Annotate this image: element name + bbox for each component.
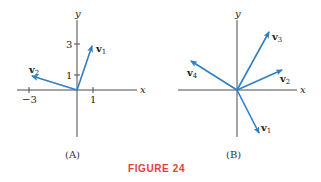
figure-canvas: x y −3 1 1 3 v1 v2 (A) x y v1 v2 v3 v4 (… <box>0 0 321 182</box>
panel-b: x y v1 v2 v3 v4 (B) <box>178 8 306 160</box>
vector-v4-b <box>191 61 237 90</box>
x-axis-label: x <box>140 84 146 95</box>
caption-b: (B) <box>226 149 241 160</box>
vector-v3-b <box>237 32 269 90</box>
label-v2-b: v2 <box>279 73 290 86</box>
tick-label-y-3: 3 <box>66 39 72 50</box>
label-v3-b: v3 <box>271 31 282 44</box>
tick-label-x-neg3: −3 <box>22 94 37 105</box>
label-v4-b: v4 <box>186 67 198 80</box>
caption-a: (A) <box>65 149 80 160</box>
tick-label-x-1: 1 <box>90 94 96 105</box>
y-axis-label: y <box>74 8 81 19</box>
vector-v1-a <box>77 46 92 90</box>
tick-label-y-1: 1 <box>66 70 72 81</box>
vector-v2-b <box>237 70 282 90</box>
x-axis-label: x <box>300 84 306 95</box>
y-axis-label: y <box>234 8 241 19</box>
label-v1-a: v1 <box>95 43 106 56</box>
label-v1-b: v1 <box>260 122 271 135</box>
panel-a: x y −3 1 1 3 v1 v2 (A) <box>17 8 146 160</box>
label-v2-a: v2 <box>28 64 39 77</box>
figure-title: FIGURE 24 <box>128 163 185 174</box>
vector-v1-b <box>237 90 259 133</box>
